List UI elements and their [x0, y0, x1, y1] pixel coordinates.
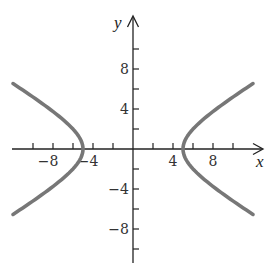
y-tick-label-neg4: −4 — [108, 181, 129, 197]
y-axis — [128, 16, 139, 263]
y-tick-label-8: 8 — [120, 61, 129, 77]
y-axis-label: y — [112, 13, 122, 32]
x-axis-label: x — [255, 152, 264, 171]
hyperbola-plot: −8 −4 4 8 8 4 −4 −8 x y — [0, 0, 270, 263]
y-tick-label-4: 4 — [120, 101, 129, 117]
x-tick-label-neg8: −8 — [38, 153, 59, 169]
x-tick-label-8: 8 — [209, 153, 218, 169]
x-tick-label-4: 4 — [169, 153, 178, 169]
y-tick-label-neg8: −8 — [108, 221, 129, 237]
